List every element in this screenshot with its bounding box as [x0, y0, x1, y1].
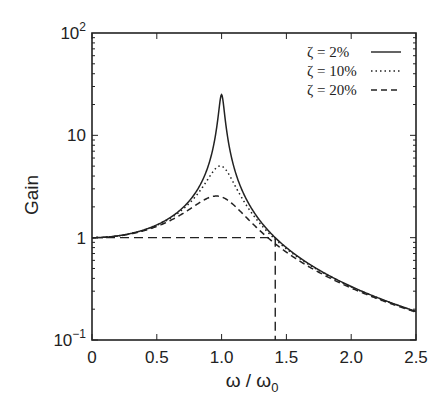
y-tick-label: 102	[60, 20, 86, 43]
legend-label: ζ = 2%	[307, 44, 349, 60]
y-tick-label-base: 10	[53, 331, 72, 350]
x-axis-title-main: ω / ω	[226, 370, 272, 391]
x-tick-label: 1.0	[210, 348, 234, 367]
x-axis-title-subscript: 0	[271, 380, 278, 395]
x-tick-label: 2.0	[339, 348, 363, 367]
y-tick-label-exponent: 2	[79, 20, 86, 34]
reference-lines	[92, 238, 275, 340]
y-axis-title: Gain	[21, 175, 42, 215]
legend: ζ = 2%ζ = 10%ζ = 20%	[307, 44, 401, 98]
y-tick-label-base: 1	[77, 229, 86, 248]
curve-solid	[92, 95, 416, 312]
x-tick-label: 0	[87, 348, 96, 367]
legend-label: ζ = 20%	[307, 82, 357, 98]
response-curves	[92, 95, 416, 313]
x-tick-label: 0.5	[145, 348, 169, 367]
y-tick-label: 10−1	[53, 327, 86, 350]
y-axis-ticks: 10210110−1	[53, 20, 416, 350]
x-tick-label: 2.5	[404, 348, 428, 367]
curve-dotted	[92, 166, 416, 312]
y-tick-label-exponent: −1	[72, 327, 86, 341]
x-axis-ticks: 00.51.01.52.02.5	[87, 33, 428, 367]
gain-chart: 10210110−1 00.51.01.52.02.5 ζ = 2%ζ = 10…	[0, 0, 446, 415]
y-tick-label: 1	[77, 229, 86, 248]
x-tick-label: 1.5	[275, 348, 299, 367]
x-axis-title: ω / ω0	[226, 370, 279, 395]
y-tick-label-base: 10	[67, 126, 86, 145]
legend-label: ζ = 10%	[307, 63, 357, 79]
y-tick-label: 10	[67, 126, 86, 145]
y-tick-label-base: 10	[60, 24, 79, 43]
